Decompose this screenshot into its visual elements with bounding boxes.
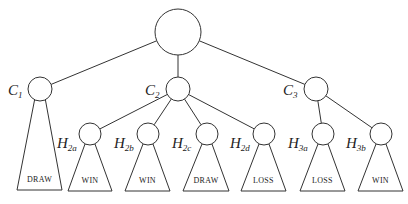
outcome-label: WIN (372, 176, 389, 185)
label-c3: C3 (283, 82, 298, 100)
label-h2d: H2d (229, 135, 250, 153)
node-h2b (137, 123, 159, 145)
outcome-label: LOSS (312, 176, 333, 185)
edge-root-c1 (51, 41, 157, 85)
root-node (155, 9, 201, 55)
edge-c2-h2c (185, 99, 202, 125)
node-c2 (166, 77, 190, 101)
outcome-label: WIN (139, 176, 156, 185)
tree-svg: DRAWWINWINDRAWLOSSLOSSWINC1C2C3H2aH2bH2c… (0, 0, 408, 204)
edge-root-c3 (199, 41, 305, 85)
node-h2a (79, 123, 101, 145)
node-h3a (312, 123, 334, 145)
edge-c2-h2b (154, 99, 171, 125)
edge-c2-h2d (189, 95, 255, 129)
label-h2c: H2c (171, 135, 191, 153)
node-h2d (253, 123, 275, 145)
node-c1 (28, 77, 52, 101)
outcome-label: DRAW (193, 176, 218, 185)
label-h3b: H3b (345, 135, 366, 153)
node-h3b (370, 123, 392, 145)
label-h3a: H3a (287, 135, 308, 153)
edge-c3-h3a (318, 101, 321, 123)
label-c2: C2 (145, 82, 160, 100)
label-h2b: H2b (113, 135, 134, 153)
game-tree-diagram: DRAWWINWINDRAWLOSSLOSSWINC1C2C3H2aH2bH2c… (0, 0, 408, 204)
label-h2a: H2a (56, 135, 77, 153)
edge-c3-h3b (326, 96, 372, 128)
node-c3 (304, 77, 328, 101)
label-c1: C1 (8, 82, 23, 100)
outcome-label: LOSS (253, 176, 274, 185)
outcome-label: DRAW (27, 175, 52, 184)
node-h2c (196, 123, 218, 145)
outcome-label: WIN (82, 176, 99, 185)
